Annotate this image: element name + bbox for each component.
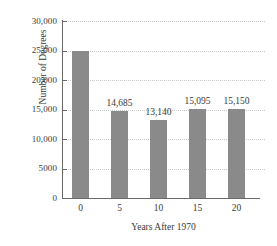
y-axis-tick-label: 5000 (0, 164, 57, 173)
y-axis-tick-label: 20,000 (0, 76, 57, 85)
y-axis-tick-label: 10,000 (0, 135, 57, 144)
x-axis-baseline (62, 198, 260, 199)
bar-value-label: 14,685 (98, 98, 142, 108)
y-axis-tick-mark (62, 198, 67, 199)
x-axis-tick-label: 0 (61, 203, 101, 213)
bar-value-label: 15,095 (176, 96, 220, 106)
y-axis-tick-mark (62, 21, 67, 22)
bar (111, 111, 128, 198)
gridline (62, 51, 265, 52)
bar (228, 109, 245, 198)
bar (189, 109, 206, 198)
bar (72, 51, 89, 199)
y-axis-tick-label: 0 (0, 194, 57, 203)
x-axis-tick-label: 20 (217, 203, 257, 213)
gridline (62, 80, 265, 81)
gridline (62, 21, 265, 22)
y-axis-tick-mark (62, 169, 67, 170)
y-axis-tick-label: 15,000 (0, 105, 57, 114)
y-axis-tick-mark (62, 139, 67, 140)
bar-chart: Number of Degrees 0500010,00015,00020,00… (0, 0, 277, 246)
y-axis-tick-mark (62, 80, 67, 81)
x-axis-tick-label: 10 (139, 203, 179, 213)
y-axis-tick-mark (62, 110, 67, 111)
x-axis-tick-label: 15 (178, 203, 218, 213)
bar (150, 120, 167, 198)
bar-value-label: 15,150 (215, 96, 259, 106)
y-axis-tick-label: 25,000 (0, 46, 57, 55)
y-axis-tick-mark (62, 51, 67, 52)
x-axis-tick-label: 5 (100, 203, 140, 213)
bar-value-label: 13,140 (137, 107, 181, 117)
x-axis-title: Years After 1970 (62, 222, 265, 233)
y-axis-tick-label: 30,000 (0, 17, 57, 26)
